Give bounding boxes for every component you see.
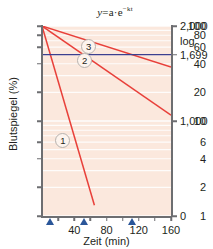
x-minor-tick (57, 217, 59, 221)
y-tick-mark (37, 25, 41, 27)
y-tick-label: 20 (194, 86, 206, 98)
y-tick-mark (37, 187, 41, 189)
half-life-1-marker (46, 218, 54, 225)
y-tick-mark (37, 120, 41, 122)
formula-exponent: −kt (123, 5, 133, 13)
curve-2 (42, 26, 171, 115)
chart-title: y=a·e−kt (60, 6, 170, 18)
y-tick-mark (37, 63, 41, 65)
right-axis-title: log (180, 35, 195, 47)
y-tick-label: 2 (200, 181, 206, 193)
y-tick-label: 4 (200, 153, 206, 165)
y-tick-mark (37, 215, 41, 217)
y-tick-mark (37, 46, 41, 48)
x-tick-mark (138, 217, 140, 221)
curve-3 (42, 26, 171, 67)
x-minor-tick (122, 217, 124, 221)
right-tick-label: 2,000 (180, 20, 208, 32)
x-minor-tick (154, 217, 156, 221)
x-tick-mark (106, 217, 108, 221)
y-tick-mark (37, 92, 41, 94)
y-tick-mark (37, 158, 41, 160)
x-tick-mark (170, 217, 172, 221)
plot-overlay (42, 26, 171, 216)
x-minor-tick (90, 217, 92, 221)
chart-figure: y=a·e−kt 123 10080604020106421 2,0001,69… (0, 0, 213, 249)
right-tick-label: 1,699 (180, 49, 208, 61)
y-tick-label: 1 (200, 210, 206, 222)
plot-area: 123 (42, 26, 171, 216)
x-tick-mark (74, 217, 76, 221)
right-tick-mark (172, 215, 177, 217)
y-axis-title: Blutspiegel (%) (7, 54, 19, 174)
y-axis-line (41, 25, 43, 217)
y-tick-label: 6 (200, 136, 206, 148)
right-tick-label: 1,000 (180, 115, 208, 127)
half-life-3-marker (128, 218, 136, 225)
x-axis-title: Zeit (min) (42, 235, 171, 247)
right-tick-mark (172, 54, 177, 56)
half-life-2-marker (80, 218, 88, 225)
right-tick-label: 0 (180, 210, 186, 222)
y-tick-mark (37, 34, 41, 36)
curves-group (42, 26, 171, 205)
right-tick-mark (172, 25, 177, 27)
y-tick-mark (37, 141, 41, 143)
right-tick-mark (172, 120, 177, 122)
